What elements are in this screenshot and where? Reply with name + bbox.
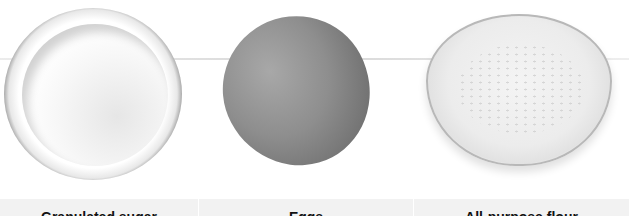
label-panel: Granulated sugar [0,199,198,216]
flour-bowl-image [414,0,629,198]
egg-image [199,0,413,198]
flour-texture [458,44,584,134]
ingredient-card-sugar: Granulated sugar [0,0,198,216]
ingredient-label: All-purpose flour [414,209,629,216]
glass-bowl [426,14,612,166]
sugar-fill [22,24,168,166]
sugar-bowl-image [0,0,198,198]
egg-shape [197,0,396,191]
label-panel: Eggs [199,199,413,216]
ingredient-label: Eggs [199,209,413,216]
label-panel: All-purpose flour [414,199,629,216]
ingredient-card-flour: All-purpose flour [414,0,629,216]
ingredient-card-eggs: Eggs [199,0,413,216]
ingredient-label: Granulated sugar [0,209,198,216]
